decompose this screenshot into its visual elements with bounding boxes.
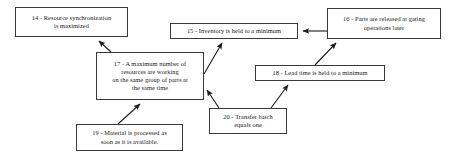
node-14-resource-synchronization[interactable]: 14 - Resource synchronization is maximiz… xyxy=(15,7,128,37)
node-20-label: 20 - Transfer batch equals one xyxy=(212,113,284,129)
node-15-inventory-minimum[interactable]: 15 - Inventory is held to a minimum xyxy=(170,23,298,39)
node-17-label: 17 - A maximum number of resources are w… xyxy=(99,60,201,93)
node-16-label: 16 - Parts are released at gating operat… xyxy=(330,15,438,31)
edge-18-to-16 xyxy=(315,43,336,65)
node-18-lead-time-minimum[interactable]: 18 - Lead time is held to a minimum xyxy=(255,65,385,81)
edge-20-to-17 xyxy=(207,90,219,108)
node-19-label: 19 - Material is processed as soon as it… xyxy=(79,129,180,145)
edge-17-to-15 xyxy=(204,43,222,74)
edge-19-to-17 xyxy=(118,104,140,124)
node-14-label: 14 - Resource synchronization is maximiz… xyxy=(18,14,125,30)
node-19-material-processed[interactable]: 19 - Material is processed as soon as it… xyxy=(76,124,183,151)
node-15-label: 15 - Inventory is held to a minimum xyxy=(173,27,295,35)
node-18-label: 18 - Lead time is held to a minimum xyxy=(258,69,382,77)
node-20-transfer-batch[interactable]: 20 - Transfer batch equals one xyxy=(209,108,287,134)
node-16-parts-released-gating[interactable]: 16 - Parts are released at gating operat… xyxy=(327,8,441,39)
node-17-maximum-resources[interactable]: 17 - A maximum number of resources are w… xyxy=(96,52,204,100)
edge-17-to-14 xyxy=(99,41,111,52)
edge-20-to-18 xyxy=(271,85,288,108)
diagram-canvas: 14 - Resource synchronization is maximiz… xyxy=(0,0,458,161)
